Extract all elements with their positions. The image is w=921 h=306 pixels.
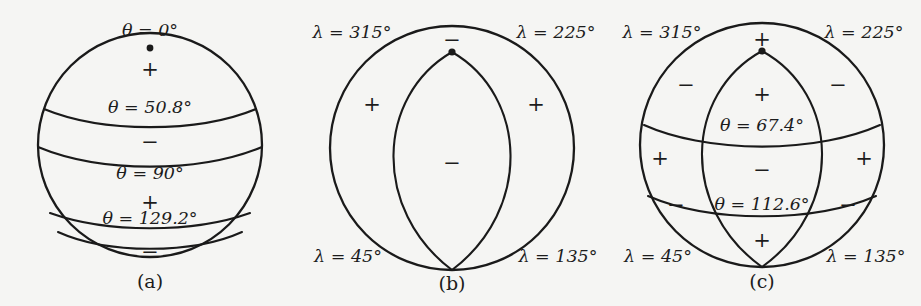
sign-a-3: + bbox=[141, 190, 159, 214]
nodal-meridian-225-135-c bbox=[762, 51, 822, 267]
sign-c-2: − bbox=[677, 73, 695, 97]
label-theta-90: θ = 90° bbox=[116, 163, 183, 183]
label-lambda-45-c: λ = 45° bbox=[623, 246, 692, 266]
sign-b-4: − bbox=[443, 151, 461, 175]
spherical-harmonic-nodal-figure: θ = 0° θ = 50.8° θ = 90° θ = 129.2° + − … bbox=[0, 0, 921, 306]
panel-b-sectoral: λ = 315° λ = 225° λ = 45° λ = 135° − + +… bbox=[300, 0, 620, 306]
label-lambda-315-b: λ = 315° bbox=[311, 22, 391, 42]
caption-a: (a) bbox=[137, 270, 163, 292]
label-lambda-135-b: λ = 135° bbox=[517, 246, 597, 266]
label-lambda-225-b: λ = 225° bbox=[515, 22, 595, 42]
sign-a-2: − bbox=[141, 130, 159, 154]
sign-c-10: + bbox=[753, 228, 771, 252]
sign-c-3: − bbox=[829, 73, 847, 97]
sign-c-7: − bbox=[753, 158, 771, 182]
label-theta-50-8: θ = 50.8° bbox=[108, 97, 192, 117]
panel-b-drawing: λ = 315° λ = 225° λ = 45° λ = 135° − + +… bbox=[300, 0, 620, 306]
caption-c: (c) bbox=[749, 270, 774, 292]
panel-a-drawing: θ = 0° θ = 50.8° θ = 90° θ = 129.2° + − … bbox=[0, 0, 310, 306]
sign-b-3: + bbox=[527, 92, 545, 116]
sign-c-8: − bbox=[667, 193, 685, 217]
panel-c-tesseral: θ = 67.4° θ = 112.6° λ = 315° λ = 225° λ… bbox=[610, 0, 921, 306]
label-lambda-315-c: λ = 315° bbox=[621, 22, 701, 42]
sign-c-6: + bbox=[855, 146, 873, 170]
label-theta-0: θ = 0° bbox=[122, 20, 178, 40]
label-lambda-225-c: λ = 225° bbox=[823, 22, 903, 42]
label-theta-112-6: θ = 112.6° bbox=[714, 194, 809, 214]
label-theta-67-4: θ = 67.4° bbox=[720, 115, 804, 135]
sign-c-4: + bbox=[753, 82, 771, 106]
sign-c-5: + bbox=[651, 146, 669, 170]
label-lambda-135-c: λ = 135° bbox=[825, 246, 905, 266]
pole-dot-a bbox=[147, 45, 154, 52]
sign-a-1: + bbox=[141, 57, 159, 81]
sign-b-1: − bbox=[443, 28, 461, 52]
sphere-outline-b bbox=[330, 26, 574, 270]
caption-b: (b) bbox=[439, 272, 466, 294]
panel-c-drawing: θ = 67.4° θ = 112.6° λ = 315° λ = 225° λ… bbox=[610, 0, 921, 306]
sign-c-9: − bbox=[839, 193, 857, 217]
sign-b-2: + bbox=[363, 92, 381, 116]
sign-a-4: − bbox=[141, 240, 159, 264]
sign-c-1: + bbox=[753, 27, 771, 51]
panel-a-zonal: θ = 0° θ = 50.8° θ = 90° θ = 129.2° + − … bbox=[0, 0, 310, 306]
label-lambda-45-b: λ = 45° bbox=[313, 246, 382, 266]
